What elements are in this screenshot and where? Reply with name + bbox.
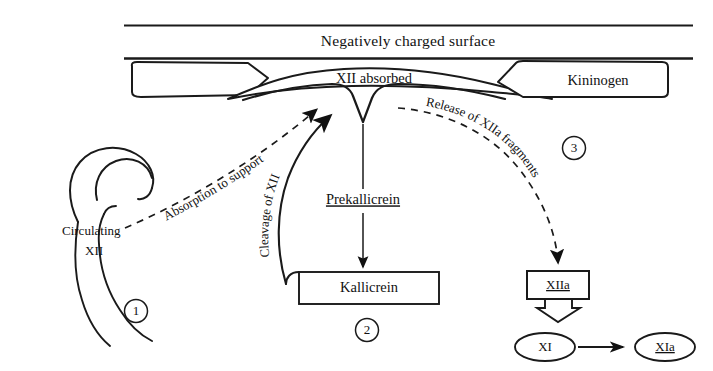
kallicrein-label: Kallicrein bbox=[340, 279, 399, 295]
prekallicrein-label: Prekallicrein bbox=[326, 191, 401, 207]
xiia-to-xi-block-arrow bbox=[537, 299, 580, 322]
cleavage-arrow bbox=[279, 116, 330, 284]
diagram-canvas: Negatively charged surface XII absorbed … bbox=[0, 0, 713, 371]
step-marker-3-label: 3 bbox=[571, 140, 578, 155]
circulating-xii-label-line2: XII bbox=[85, 243, 103, 258]
circulating-xii-label-line1: Circulating bbox=[62, 223, 121, 238]
xia-label: XIa bbox=[655, 339, 675, 354]
step-marker-2-label: 2 bbox=[364, 322, 371, 337]
release-arrow bbox=[398, 108, 558, 262]
kininogen-label: Kininogen bbox=[567, 72, 629, 88]
diagram-svg: Negatively charged surface XII absorbed … bbox=[0, 0, 713, 371]
xii-absorbed-label: XII absorbed bbox=[336, 70, 413, 86]
kallicrein-to-cleavage-link bbox=[286, 272, 299, 284]
absorption-arrow-label: Absorption to support bbox=[161, 151, 266, 223]
absorption-arrow bbox=[125, 110, 316, 228]
step-marker-1-label: 1 bbox=[133, 303, 140, 318]
surface-label: Negatively charged surface bbox=[321, 32, 495, 49]
xi-label: XI bbox=[538, 339, 552, 354]
xiia-label: XIIa bbox=[546, 277, 570, 292]
